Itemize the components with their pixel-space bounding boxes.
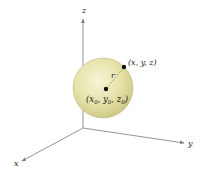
y-axis bbox=[83, 128, 184, 143]
surface-point bbox=[122, 65, 126, 69]
x-axis-label: x bbox=[14, 159, 19, 168]
y-axis-label: y bbox=[187, 139, 193, 148]
paren-close: ) bbox=[124, 94, 128, 104]
z-axis-label: z bbox=[81, 6, 87, 15]
x-axis bbox=[22, 128, 83, 161]
center-point bbox=[104, 87, 108, 91]
sphere-diagram: z y x r (x, y, z) (x0, y0, z0) bbox=[0, 0, 208, 178]
surface-point-label: (x, y, z) bbox=[128, 58, 157, 67]
